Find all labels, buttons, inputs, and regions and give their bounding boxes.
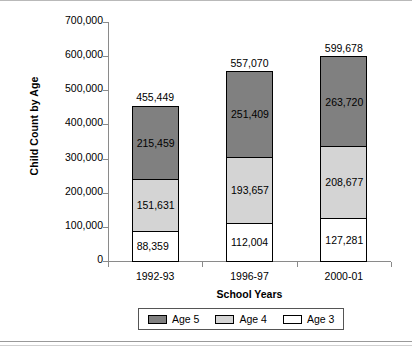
y-axis-tick-label: 600,000 (65, 48, 103, 60)
bar-segment-value-label: 193,657 (231, 184, 269, 196)
legend-item-age-3: Age 3 (283, 313, 334, 325)
bar-segment-value-label: 151,631 (137, 199, 175, 211)
legend-swatch-age-5 (148, 315, 167, 324)
plot-area: 0100,000200,000300,000400,000500,000600,… (108, 22, 391, 262)
y-axis-tick-mark (103, 124, 108, 125)
bar-stack: 251,409193,657112,004 (226, 71, 273, 261)
bar-segment-value-label: 215,459 (137, 137, 175, 149)
bar-stack: 263,720208,677127,281 (320, 56, 367, 261)
x-axis-tick-mark (202, 262, 203, 267)
y-axis-tick-label: 200,000 (65, 185, 103, 197)
y-axis-tick-mark (103, 90, 108, 91)
legend-swatch-age-3 (283, 315, 302, 324)
x-axis-tick-mark (297, 262, 298, 267)
bar-segment-age-4: 193,657 (226, 157, 273, 224)
figure-border-top (0, 0, 412, 1)
bar-segment-age-5: 251,409 (226, 71, 273, 158)
bar-segment-value-label: 263,720 (325, 96, 363, 108)
bar-segment-value-label: 208,677 (325, 176, 363, 188)
bar-segment-value-label: 127,281 (325, 234, 363, 246)
y-axis-line (108, 22, 109, 262)
x-axis-tick-mark (391, 262, 392, 267)
x-axis-category-label: 2000-01 (325, 270, 364, 282)
legend-item-age-5: Age 5 (148, 313, 199, 325)
bar-segment-value-label: 112,004 (231, 236, 268, 248)
bar-segment-age-4: 151,631 (132, 179, 179, 232)
y-axis-tick-mark (103, 227, 108, 228)
chart-legend: Age 5 Age 4 Age 3 (138, 308, 344, 330)
bar-segment-value-label: 251,409 (231, 108, 269, 120)
y-axis-tick-mark (103, 56, 108, 57)
y-axis-tick-label: 100,000 (65, 219, 103, 231)
legend-label-age-4: Age 4 (239, 313, 266, 325)
bar-segment-age-3: 127,281 (320, 218, 367, 262)
y-axis-tick-label: 0 (97, 253, 103, 265)
y-axis-tick-mark (103, 159, 108, 160)
y-axis-title: Child Count by Age (28, 46, 40, 206)
y-axis-tick-label: 300,000 (65, 151, 103, 163)
x-axis-category-label: 1992-93 (136, 270, 175, 282)
chart-figure: Child Count by Age 0100,000200,000300,00… (0, 0, 412, 349)
y-axis-tick-label: 500,000 (65, 82, 103, 94)
legend-label-age-5: Age 5 (172, 313, 199, 325)
bar-segment-age-3: 88,359 (132, 231, 179, 262)
x-axis-category-label: 1996-97 (230, 270, 269, 282)
y-axis-tick-label: 400,000 (65, 116, 103, 128)
x-axis-tick-mark (108, 262, 109, 267)
legend-label-age-3: Age 3 (307, 313, 334, 325)
bar-segment-value-label: 88,359 (137, 240, 169, 252)
figure-border-bottom (0, 341, 412, 342)
bar-total-label: 599,678 (325, 42, 363, 54)
legend-item-age-4: Age 4 (215, 313, 266, 325)
y-axis-tick-label: 700,000 (65, 14, 103, 26)
figure-border-bottom-secondary (0, 345, 412, 346)
bar-segment-age-5: 215,459 (132, 106, 179, 181)
bar-stack: 215,459151,63188,359 (132, 106, 179, 261)
x-axis-title: School Years (108, 288, 391, 300)
bar-total-label: 455,449 (136, 91, 174, 103)
y-axis-tick-mark (103, 193, 108, 194)
bar-segment-age-4: 208,677 (320, 146, 367, 218)
bar-segment-age-3: 112,004 (226, 223, 273, 262)
y-axis-tick-mark (103, 22, 108, 23)
legend-swatch-age-4 (215, 315, 234, 324)
bar-segment-age-5: 263,720 (320, 56, 367, 147)
bar-total-label: 557,070 (231, 57, 269, 69)
